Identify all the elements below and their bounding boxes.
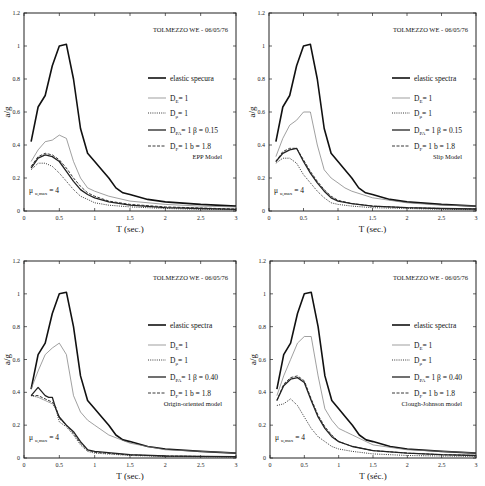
plot-frame [24,261,236,458]
svg-text:elastic specura: elastic specura [170,74,215,83]
record-title: TOLMEZZO WE - 06/05/76 [393,274,469,281]
svg-text:Dμ= 1: Dμ= 1 [170,109,188,119]
x-tick-label: 2.5 [438,462,446,468]
y-tick-label: 0.8 [13,76,21,82]
svg-text:elastic spectra: elastic spectra [414,321,457,330]
y-tick-label: 1 [17,43,20,49]
svg-text:DF= 1 b = 1.8: DF= 1 b = 1.8 [170,142,211,152]
series-line [31,153,236,209]
x-tick-label: 0 [269,462,272,468]
series-line [277,376,476,456]
model-label: Origin-oriented model [164,400,222,407]
y-axis-label: a/g [247,106,257,117]
x-tick-label: 1.5 [126,462,134,468]
svg-text:μ u,max = 4: μ u,max = 4 [274,186,304,197]
y-axis-label: a/g [248,354,258,365]
x-tick-label: 0.5 [56,462,64,468]
y-tick-label: 0 [263,455,266,461]
chart-panel-clough-johnson-model: 00.511.522.5300.20.40.60.811.2T (séc.)a/… [248,258,478,481]
x-axis-label: T (sec.) [116,471,143,481]
x-tick-label: 0.5 [56,215,64,221]
y-tick-label: 1.2 [259,258,267,264]
svg-text:Dμ= 1: Dμ= 1 [170,356,188,366]
x-tick-label: 0 [23,215,26,221]
figure-canvas: 00.511.522.5300.20.40.60.811.2T (sec.)a/… [0,0,485,486]
svg-text:elastic spectra: elastic spectra [414,74,457,83]
svg-text:DF= 1 b = 1.8: DF= 1 b = 1.8 [414,389,455,399]
y-tick-label: 0 [17,455,20,461]
y-tick-label: 0.4 [13,389,21,395]
svg-text:DPA= 1 β = 0.40: DPA= 1 β = 0.40 [414,373,462,383]
x-axis-label: T (sec.) [359,224,386,234]
y-tick-label: 1 [262,43,265,49]
y-tick-label: 1.2 [258,10,266,16]
model-label: EPP Model [192,153,222,160]
chart-panel-origin-oriented-model: 00.511.522.5300.20.40.60.811.2T (sec.)a/… [2,258,238,481]
svg-text:μ u,max = 4: μ u,max = 4 [29,433,59,444]
y-tick-label: 0.8 [13,324,21,330]
series-line [31,163,236,210]
x-axis-label: T (sec.) [116,224,143,234]
plot-frame [270,261,476,458]
series-line [277,399,476,457]
x-tick-label: 0 [23,462,26,468]
legend: elastic spectraDE= 1Dμ= 1DPA= 1 β = 0.40… [148,321,218,399]
y-tick-label: 0.4 [259,389,267,395]
x-tick-label: 3 [475,215,478,221]
y-tick-label: 0.6 [13,109,21,115]
x-tick-label: 2.5 [197,462,205,468]
legend: elastic spectraDE= 1Dμ= 1DPA= 1 β = 0.15… [392,74,462,152]
record-title: TOLMEZZO WE - 06/05/76 [153,26,229,33]
svg-text:Dμ= 1: Dμ= 1 [414,356,432,366]
y-tick-label: 0.6 [259,357,267,363]
x-tick-label: 0.5 [300,215,308,221]
x-tick-label: 3 [475,462,478,468]
y-tick-label: 0.4 [258,142,266,148]
x-tick-label: 1.5 [369,462,377,468]
svg-text:DPA= 1 β = 0.15: DPA= 1 β = 0.15 [414,126,462,136]
x-tick-label: 3 [235,215,238,221]
y-tick-label: 1 [17,291,20,297]
svg-text:DPA= 1 β = 0.15: DPA= 1 β = 0.15 [170,126,218,136]
x-tick-label: 1 [337,462,340,468]
y-tick-label: 1 [263,291,266,297]
y-tick-label: 0 [262,208,265,214]
y-tick-label: 1.2 [13,258,21,264]
svg-text:Dμ= 1: Dμ= 1 [414,109,432,119]
model-label: Slip Model [433,153,462,160]
y-tick-label: 0.2 [13,422,21,428]
y-tick-label: 0.6 [13,357,21,363]
y-tick-label: 0.2 [258,175,266,181]
x-axis-label: T (séc.) [359,471,386,481]
x-tick-label: 0.5 [301,462,309,468]
y-axis-label: a/g [2,354,12,365]
series-line [31,343,236,453]
record-title: TOLMEZZO WE - 06/05/76 [153,274,229,281]
chart-panel-epp-model: 00.511.522.5300.20.40.60.811.2T (sec.)a/… [2,10,238,234]
x-tick-label: 1.5 [126,215,134,221]
y-tick-label: 0.8 [258,76,266,82]
plot-frame [269,13,476,211]
svg-text:DE= 1: DE= 1 [414,341,433,351]
svg-text:elastic spectra: elastic spectra [170,321,213,330]
svg-text:DF= 1 b = 1.8: DF= 1 b = 1.8 [414,142,455,152]
svg-text:μ u,max = 4: μ u,max = 4 [275,433,305,444]
y-tick-label: 0.2 [259,422,267,428]
x-tick-label: 2 [164,462,167,468]
y-tick-label: 0.6 [258,109,266,115]
legend: elastic specuraDE= 1Dμ= 1DPA= 1 β = 0.15… [148,74,218,152]
svg-text:μ u,max = 4: μ u,max = 4 [29,186,59,197]
y-tick-label: 1.2 [13,10,21,16]
y-tick-label: 0.8 [259,324,267,330]
x-tick-label: 1 [93,462,96,468]
svg-text:DE= 1: DE= 1 [414,94,433,104]
x-tick-label: 3 [235,462,238,468]
chart-panel-slip-model: 00.511.522.5300.20.40.60.811.2T (sec.)a/… [247,10,478,234]
x-tick-label: 2 [406,462,409,468]
x-tick-label: 1 [337,215,340,221]
x-tick-label: 2.5 [197,215,205,221]
svg-text:DPA= 1 β = 0.40: DPA= 1 β = 0.40 [170,373,218,383]
plot-frame [24,13,236,211]
x-tick-label: 2 [164,215,167,221]
record-title: TOLMEZZO WE - 06/05/76 [393,26,469,33]
